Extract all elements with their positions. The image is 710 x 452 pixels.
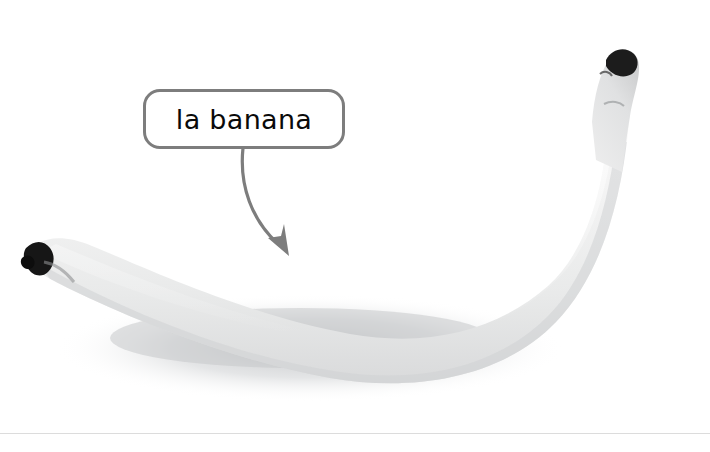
callout-box[interactable]: la banana <box>143 89 345 149</box>
banana-stem <box>592 49 639 172</box>
banana-photo <box>0 0 710 452</box>
bottom-rule <box>0 433 710 434</box>
banana-illustration <box>0 0 710 452</box>
image-canvas: la banana <box>0 0 710 452</box>
callout-label: la banana <box>176 106 312 133</box>
